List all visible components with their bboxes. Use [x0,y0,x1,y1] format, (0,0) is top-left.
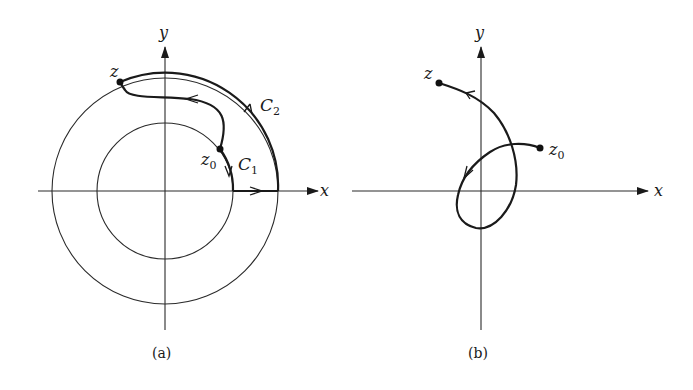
panel-a: x y z z0 C1 C2 (a) [38,23,329,361]
panel-b: x y z z0 (b) [352,23,663,361]
label-z-a: z [109,62,119,81]
point-z0-b [537,145,544,152]
figure-canvas: x y z z0 C1 C2 (a) x y [0,0,693,390]
y-axis-label-a: y [158,23,169,42]
y-axis-label-b: y [474,23,485,42]
path-z0-to-z-loop [439,83,540,228]
caption-b: (b) [468,345,488,361]
label-z-b: z [423,64,433,83]
point-z0-a [217,146,224,153]
caption-a: (a) [152,345,171,361]
x-axis-label-b: x [654,181,663,200]
label-z0-a: z0 [200,150,216,172]
label-c2: C2 [260,95,280,118]
point-z-b [436,80,443,87]
x-axis-label-a: x [320,181,329,200]
label-z0-b: z0 [548,140,564,162]
label-c1: C1 [238,154,258,177]
